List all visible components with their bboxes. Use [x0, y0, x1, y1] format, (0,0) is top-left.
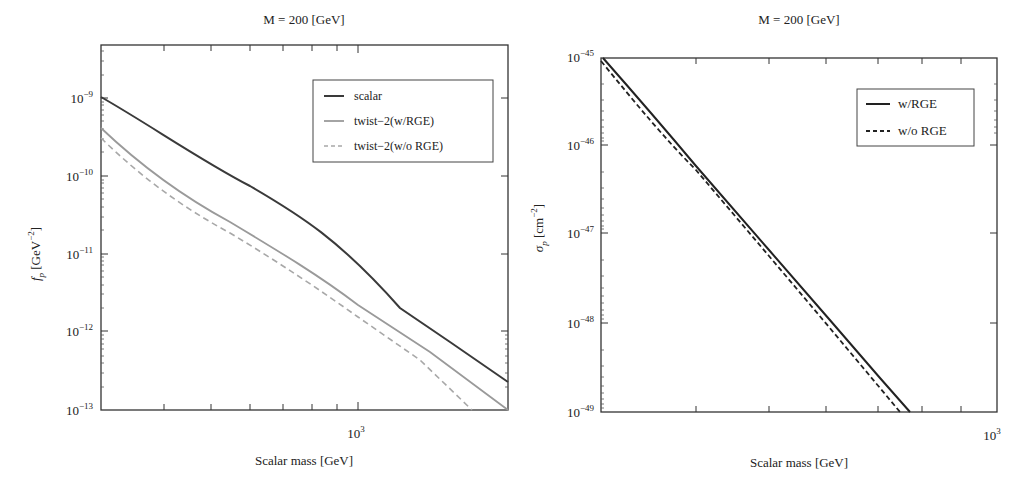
series-twist2-wrge — [101, 128, 508, 410]
left-chart-title: M = 200 [GeV] — [263, 12, 344, 27]
right-chart: M = 200 [GeV] 10−45 — [529, 12, 1001, 470]
right-x-tick-label: 103 — [983, 426, 1001, 443]
legend-label-twist2-worge: twist−2(w/o RGE) — [354, 139, 443, 153]
svg-text:10−10: 10−10 — [66, 167, 94, 184]
left-chart: M = 200 [GeV] — [26, 12, 508, 468]
figure: M = 200 [GeV] — [0, 0, 1021, 493]
left-y-axis-title: fp [GeV−2] — [26, 227, 46, 281]
right-x-axis-title: Scalar mass [GeV] — [750, 455, 848, 470]
legend-label-wo-rge: w/o RGE — [898, 123, 947, 138]
left-y-tick-labels: 10−9 10−10 10−11 10−12 10−13 — [66, 89, 94, 418]
legend-label-twist2-wrge: twist−2(w/RGE) — [354, 114, 434, 128]
left-x-axis-title: Scalar mass [GeV] — [255, 453, 353, 468]
svg-text:10−13: 10−13 — [66, 401, 94, 418]
right-y-axis-title: σp [cm−2] — [529, 204, 549, 252]
right-chart-title: M = 200 [GeV] — [758, 12, 839, 27]
right-legend: w/RGE w/o RGE — [857, 89, 974, 146]
series-twist2-worge — [101, 138, 472, 410]
right-y-tick-labels: 10−45 10−46 10−47 10−48 10−49 — [567, 48, 595, 420]
svg-text:10−9: 10−9 — [70, 89, 93, 106]
legend-label-w-rge: w/RGE — [898, 96, 937, 111]
svg-text:10−12: 10−12 — [66, 322, 93, 339]
svg-text:10−45: 10−45 — [567, 48, 595, 65]
left-x-tick-label: 103 — [347, 424, 365, 441]
svg-text:10−47: 10−47 — [567, 224, 595, 241]
svg-text:10−11: 10−11 — [66, 245, 93, 262]
svg-text:10−46: 10−46 — [567, 136, 595, 153]
legend-label-scalar: scalar — [354, 89, 382, 103]
svg-text:10−48: 10−48 — [567, 314, 595, 331]
series-wo-rge — [601, 61, 900, 412]
left-legend: scalar twist−2(w/RGE) twist−2(w/o RGE) — [313, 80, 493, 162]
svg-text:10−49: 10−49 — [567, 403, 595, 420]
